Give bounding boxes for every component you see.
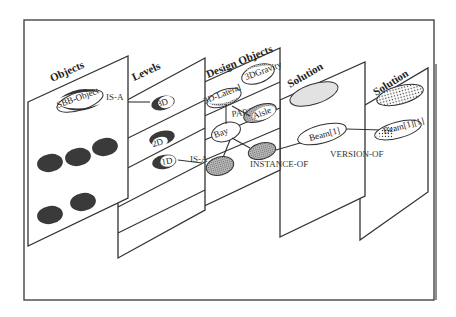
relation-is-a-mid: IS-A	[190, 154, 208, 164]
relation-instance-of: INSTANCE-OF	[250, 159, 308, 169]
layered-object-model-diagram: Solution Solution Design Objects Levels …	[0, 0, 456, 317]
svg-text:1D: 1D	[161, 155, 174, 167]
relation-is-a-top: IS-A	[106, 92, 124, 102]
plane-title: Levels	[130, 59, 163, 83]
relation-version-of: VERSION-OF	[330, 149, 384, 159]
